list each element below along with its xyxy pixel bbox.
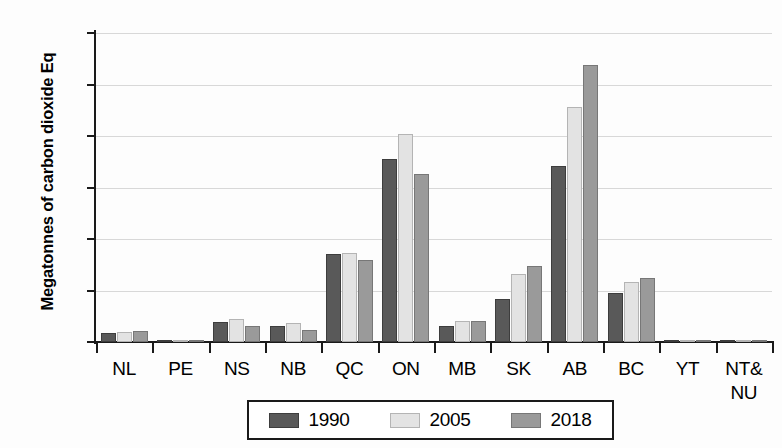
bar-AB-2005 — [567, 107, 582, 342]
x-tick-mark — [265, 343, 267, 353]
bar-group — [495, 33, 542, 342]
bar-YT-2005 — [680, 340, 695, 342]
bar-group — [551, 33, 598, 342]
legend-swatch-2018 — [511, 413, 541, 428]
x-tick-label: NT&NU — [709, 357, 779, 405]
bar-QC-1990 — [326, 254, 341, 342]
y-tick-mark — [87, 84, 96, 86]
bar-group — [157, 33, 204, 342]
bar-PE-2005 — [173, 340, 188, 342]
y-tick-mark — [87, 32, 96, 34]
bar-NB-2018 — [302, 330, 317, 342]
bar-NTNU-2005 — [736, 340, 751, 342]
bar-MB-2018 — [471, 321, 486, 342]
y-tick-mark — [87, 238, 96, 240]
bar-NL-1990 — [101, 333, 116, 342]
x-tick-mark — [96, 343, 98, 353]
bar-QC-2005 — [342, 253, 357, 342]
y-tick-mark — [87, 341, 96, 343]
x-tick-mark — [209, 343, 211, 353]
legend-swatch-2005 — [390, 413, 420, 428]
bar-BC-1990 — [608, 293, 623, 342]
legend-label-1990: 1990 — [308, 409, 349, 431]
bar-group — [439, 33, 486, 342]
bar-NS-1990 — [213, 322, 228, 342]
x-tick-mark — [152, 343, 154, 353]
bar-MB-1990 — [439, 326, 454, 342]
bar-group — [664, 33, 711, 342]
bar-ON-2005 — [398, 134, 413, 342]
bar-group — [608, 33, 655, 342]
x-tick-mark — [772, 343, 774, 353]
x-tick-mark — [490, 343, 492, 353]
bar-SK-1990 — [495, 299, 510, 342]
x-tick-mark — [716, 343, 718, 353]
bar-BC-2005 — [624, 282, 639, 342]
bar-NL-2005 — [117, 332, 132, 342]
bar-ON-1990 — [382, 159, 397, 342]
bar-AB-1990 — [551, 166, 566, 342]
bar-NB-1990 — [270, 326, 285, 342]
plot-area — [96, 33, 772, 342]
legend-label-2018: 2018 — [550, 409, 591, 431]
y-tick-mark — [87, 187, 96, 189]
bar-NS-2005 — [229, 319, 244, 342]
bar-NTNU-1990 — [720, 340, 735, 342]
bar-group — [101, 33, 148, 342]
bar-NTNU-2018 — [752, 340, 767, 342]
bar-PE-2018 — [189, 340, 204, 342]
bar-group — [213, 33, 260, 342]
x-tick-mark — [659, 343, 661, 353]
y-tick-mark — [87, 135, 96, 137]
bar-group — [326, 33, 373, 342]
emissions-bar-chart: Megatonnes of carbon dioxide Eq 19902005… — [0, 0, 782, 448]
legend-entry-2005[interactable]: 2005 — [390, 409, 470, 431]
bar-SK-2005 — [511, 274, 526, 342]
bar-YT-1990 — [664, 340, 679, 342]
legend-entry-1990[interactable]: 1990 — [269, 409, 349, 431]
legend-label-2005: 2005 — [429, 409, 470, 431]
bar-ON-2018 — [414, 174, 429, 342]
bar-PE-1990 — [157, 340, 172, 342]
legend-swatch-1990 — [269, 413, 299, 428]
bar-NB-2005 — [286, 323, 301, 342]
y-axis-title: Megatonnes of carbon dioxide Eq — [38, 17, 57, 347]
bar-QC-2018 — [358, 260, 373, 342]
x-tick-mark — [603, 343, 605, 353]
x-tick-mark — [434, 343, 436, 353]
legend-entry-2018[interactable]: 2018 — [511, 409, 591, 431]
y-tick-mark — [87, 290, 96, 292]
bar-group — [720, 33, 767, 342]
bar-BC-2018 — [640, 278, 655, 342]
bar-group — [270, 33, 317, 342]
chart-legend: 199020052018 — [247, 400, 614, 440]
bar-SK-2018 — [527, 266, 542, 342]
bar-MB-2005 — [455, 321, 470, 342]
x-tick-label-line2: NU — [709, 381, 779, 405]
bar-YT-2018 — [696, 340, 711, 342]
bar-AB-2018 — [583, 65, 598, 342]
bar-group — [382, 33, 429, 342]
bar-NS-2018 — [245, 326, 260, 342]
bar-NL-2018 — [133, 331, 148, 342]
x-tick-mark — [321, 343, 323, 353]
x-tick-mark — [547, 343, 549, 353]
x-tick-mark — [378, 343, 380, 353]
